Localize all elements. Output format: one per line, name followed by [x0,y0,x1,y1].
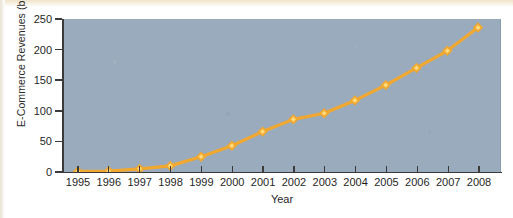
x-axis-tick-label: 1995 [66,176,90,188]
x-axis-tick-label: 1997 [127,176,151,188]
y-axis-tick-labels: 050100150200250 [0,0,52,218]
x-axis-tick [417,166,418,172]
y-axis-line [62,19,64,173]
plot-area [62,19,501,172]
x-axis-tick [170,166,171,172]
y-axis-tick [55,79,62,81]
x-axis-tick [355,166,356,172]
y-axis-tick [55,18,62,20]
x-axis-tick [386,166,387,172]
ecommerce-revenues-line-chart: E-Commerce Revenues (billions) 050100150… [0,0,513,218]
series-markers [73,22,483,172]
x-axis-tick-label: 2003 [313,176,337,188]
y-axis-tick-label: 0 [6,166,52,178]
x-axis-tick-label: 1998 [158,176,182,188]
x-axis-tick [324,166,325,172]
x-axis-tick [478,166,479,172]
x-axis-tick-label: 1999 [189,176,213,188]
x-axis-tick-label: 2000 [220,176,244,188]
x-axis-tick [108,166,109,172]
y-axis-tick [55,141,62,143]
x-axis-tick [77,166,78,172]
x-axis-tick-label: 2001 [251,176,275,188]
x-axis-tick-label: 2008 [467,176,491,188]
x-axis-tick-label: 2005 [374,176,398,188]
x-axis-tick [201,166,202,172]
y-axis-tick-label: 100 [6,105,52,117]
y-axis-tick [55,171,62,173]
x-axis-tick [262,166,263,172]
x-axis-tick [293,166,294,172]
x-axis-title: Year [62,193,502,205]
x-axis-tick-label: 2002 [282,176,306,188]
x-axis-tick [232,166,233,172]
y-axis-tick-label: 150 [6,74,52,86]
series-line-ecommerce-revenues [78,28,478,172]
series-plot [62,19,500,172]
x-axis-line [62,172,502,174]
y-axis-tick [55,110,62,112]
x-axis-tick-label: 1996 [97,176,121,188]
x-axis-tick [139,166,140,172]
x-axis-tick-label: 2004 [343,176,367,188]
y-axis-tick-label: 250 [6,13,52,25]
x-axis-tick-label: 2007 [436,176,460,188]
y-axis-tick [55,49,62,51]
y-axis-tick-label: 50 [6,135,52,147]
x-axis-tick [448,166,449,172]
x-axis-tick-label: 2006 [405,176,429,188]
y-axis-tick-label: 200 [6,44,52,56]
